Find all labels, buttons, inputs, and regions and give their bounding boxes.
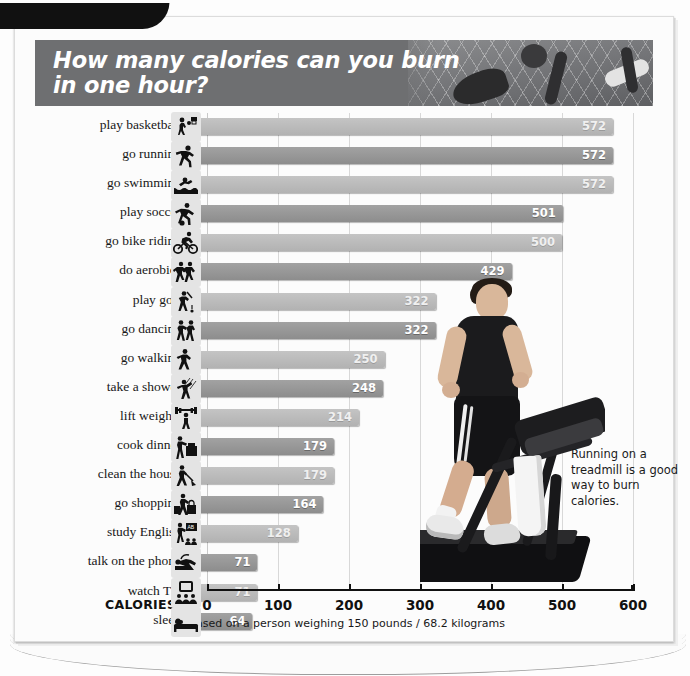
bar[interactable]: 572 [187, 176, 613, 193]
axis-tick-label: 0 [202, 597, 211, 613]
category-label: play basketball [100, 117, 181, 133]
category-label: go bike riding [105, 233, 181, 249]
bar-value-label: 164 [292, 497, 316, 512]
category-label: study English [107, 524, 181, 540]
axis-tick-100 [278, 584, 280, 591]
bar[interactable]: 248 [187, 380, 383, 397]
page-title: How many calories can you burn in one ho… [53, 48, 473, 98]
bar-value-label: 179 [303, 439, 327, 454]
bar[interactable]: 500 [187, 234, 562, 251]
bar-value-label: 248 [352, 381, 376, 396]
bar-value-label: 214 [328, 410, 352, 425]
axis-tick-label: 100 [264, 597, 292, 613]
aerobics-icon [171, 257, 201, 287]
corner-tab-decoration [0, 3, 169, 29]
phone-icon [171, 548, 201, 578]
bar-value-label: 71 [234, 555, 250, 570]
sleeping-icon [171, 607, 201, 637]
shopping-icon [171, 490, 201, 520]
cycling-icon [171, 228, 201, 258]
bar-chart: play basketball572go running572go swimmi… [35, 113, 653, 613]
bar-value-label: 501 [532, 206, 556, 221]
golf-icon [171, 287, 201, 317]
television-icon [171, 578, 201, 608]
running-icon [171, 141, 201, 171]
footnote: *Based on a person weighing 150 pounds /… [35, 617, 653, 630]
bar[interactable]: 164 [187, 496, 323, 513]
bar-value-label: 128 [267, 526, 291, 541]
bar[interactable]: 128 [187, 525, 298, 542]
bar[interactable]: 322 [187, 293, 436, 310]
bar[interactable]: 214 [187, 409, 359, 426]
bar-row: play soccer501 [35, 200, 653, 229]
studying-icon: AB [171, 519, 201, 549]
axis-tick-200 [349, 584, 351, 591]
infographic-page: How many calories can you burn in one ho… [0, 0, 690, 676]
category-label: take a shower [107, 379, 181, 395]
bar-row: play basketball572 [35, 113, 653, 142]
bar-track: 572 [187, 176, 633, 193]
axis-tick-600 [633, 584, 635, 591]
bar-value-label: 572 [582, 177, 606, 192]
bar-value-label: 572 [582, 148, 606, 163]
treadmill-runner-photo [420, 278, 605, 608]
weightlifting-icon [171, 403, 201, 433]
bar[interactable]: 501 [187, 205, 563, 222]
bar-track: 501 [187, 205, 633, 222]
category-label: clean the house [98, 466, 181, 482]
bar[interactable]: 572 [187, 118, 613, 135]
shower-icon [171, 374, 201, 404]
axis-tick-0 [207, 584, 209, 591]
svg-text:AB: AB [188, 525, 195, 531]
bar-track: 500 [187, 234, 633, 251]
walking-icon [171, 345, 201, 375]
bar-value-label: 179 [303, 468, 327, 483]
swimming-icon [171, 170, 201, 200]
bar[interactable]: 179 [187, 438, 334, 455]
bar-track: 572 [187, 147, 633, 164]
category-label: talk on the phone [88, 553, 181, 569]
bar[interactable]: 250 [187, 351, 385, 368]
bar[interactable]: 322 [187, 322, 436, 339]
bar[interactable]: 572 [187, 147, 613, 164]
bar-row: go bike riding500 [35, 229, 653, 258]
cooking-icon [171, 432, 201, 462]
dancing-icon [171, 316, 201, 346]
header-banner: How many calories can you burn in one ho… [35, 40, 653, 106]
basketball-icon [171, 112, 201, 142]
bar-value-label: 500 [531, 235, 555, 250]
bar-value-label: 250 [353, 352, 377, 367]
bar-track: 572 [187, 118, 633, 135]
soccer-icon [171, 199, 201, 229]
cleaning-icon [171, 461, 201, 491]
callout-text: Running on a treadmill is a good way to … [571, 447, 679, 509]
bar[interactable]: 179 [187, 467, 334, 484]
axis-tick-label: 600 [619, 597, 647, 613]
bar-row: go running572 [35, 142, 653, 171]
category-label: go swimming [107, 175, 181, 191]
bar-value-label: 572 [582, 119, 606, 134]
bar-row: go swimming572 [35, 171, 653, 200]
axis-tick-label: 200 [335, 597, 363, 613]
infographic-sheet: How many calories can you burn in one ho… [14, 16, 674, 642]
